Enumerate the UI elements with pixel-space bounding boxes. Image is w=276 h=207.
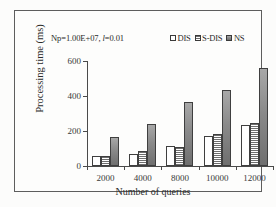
bar-group [87, 61, 124, 166]
bar [213, 134, 222, 166]
bar [101, 156, 110, 166]
x-axis-line [87, 166, 273, 167]
bar [147, 124, 156, 166]
chart-legend: DIS S-DIS NS [170, 33, 244, 43]
bar [184, 102, 193, 166]
bar-group [161, 61, 198, 166]
x-axis-tick-label: 12000 [243, 173, 266, 183]
y-axis-title: Processing time (ms) [34, 4, 45, 134]
bar [92, 156, 101, 166]
x-axis-tick [87, 166, 88, 170]
bar [138, 151, 147, 166]
y-axis-tick-label: 600 [68, 56, 82, 66]
chart-annotation: Np=1.00E+07, l=0.01 [51, 33, 124, 43]
x-axis-tick [273, 166, 274, 170]
bar [129, 154, 138, 166]
x-axis-tick [236, 166, 237, 170]
legend-swatch-dis-icon [170, 35, 176, 41]
legend-label-dis: DIS [178, 33, 191, 43]
y-axis-tick-label: 400 [68, 91, 82, 101]
bar-group [124, 61, 161, 166]
bar [166, 146, 175, 166]
bar [222, 90, 231, 166]
legend-item-ns: NS [226, 33, 244, 43]
annotation-suffix: =0.01 [105, 33, 124, 43]
y-axis-tick-label: 200 [68, 126, 82, 136]
x-axis-title: Number of queries [15, 186, 276, 197]
annotation-prefix: Np=1.00E+07, [51, 33, 103, 43]
bar [204, 136, 213, 166]
bar-group [236, 61, 273, 166]
legend-label-sdis: S-DIS [202, 33, 222, 43]
legend-label-ns: NS [234, 33, 244, 43]
bar [110, 137, 119, 166]
x-axis-tick-label: 4000 [134, 173, 152, 183]
bar-group [199, 61, 236, 166]
legend-swatch-sdis-icon [195, 35, 201, 41]
legend-item-dis: DIS [170, 33, 191, 43]
bar [241, 125, 250, 166]
x-axis-tick [199, 166, 200, 170]
x-axis-tick-label: 2000 [97, 173, 115, 183]
plot-area: 0200400600 2000400080001000012000 [87, 61, 273, 166]
legend-item-sdis: S-DIS [195, 33, 223, 43]
figure-frame: Np=1.00E+07, l=0.01 DIS S-DIS NS 0200400… [14, 10, 262, 192]
bar [175, 147, 184, 166]
x-axis-tick-label: 10000 [206, 173, 229, 183]
y-axis-tick-label: 0 [77, 161, 82, 171]
figure-container: Np=1.00E+07, l=0.01 DIS S-DIS NS 0200400… [0, 0, 276, 207]
bar [259, 68, 268, 166]
x-axis-tick [161, 166, 162, 170]
x-axis-tick [124, 166, 125, 170]
x-axis-tick-label: 8000 [171, 173, 189, 183]
legend-swatch-ns-icon [226, 35, 232, 41]
bar [250, 123, 259, 166]
